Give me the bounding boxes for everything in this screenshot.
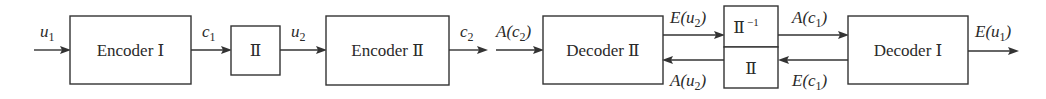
signal-A-u2: A(u2) — [669, 71, 707, 93]
arrow-Au2 — [662, 56, 724, 64]
interleaver-block: Ⅱ — [231, 26, 280, 75]
signal-E-u2: E(u2) — [669, 8, 707, 30]
signal-c1: c1 — [202, 22, 216, 44]
interleaver-2-block: Ⅱ — [724, 47, 778, 88]
signal-u1: u1 — [40, 22, 55, 44]
turbo-code-diagram: u1 Encoder Ⅰ c1 Ⅱ u2 Encoder Ⅱ c2 A(c2) — [0, 0, 1046, 99]
encoder-2-label: Encoder Ⅱ — [351, 41, 423, 60]
signal-c2: c2 — [460, 22, 474, 44]
arrow-Eu1-output — [968, 47, 1019, 55]
signal-A-c2: A(c2) — [495, 22, 532, 44]
arrow-c2 — [449, 46, 488, 54]
signal-A-c1: A(c1) — [791, 8, 828, 30]
arrow-u2 — [280, 46, 327, 54]
arrow-Ac2 — [496, 46, 544, 54]
decoder-1-label: Decoder Ⅰ — [874, 41, 943, 60]
encoder-1-block: Encoder Ⅰ — [70, 16, 191, 84]
decoder-1-block: Decoder Ⅰ — [848, 16, 968, 84]
arrow-u1-input — [34, 46, 71, 54]
arrow-Ec1 — [778, 56, 848, 64]
decoder-2-block: Decoder Ⅱ — [543, 16, 663, 84]
interleaver-2-label: Ⅱ — [745, 59, 757, 78]
deinterleaver-block: Ⅱ−1 — [724, 6, 778, 47]
arrow-c1 — [191, 46, 232, 54]
encoder-2-block: Encoder Ⅱ — [326, 16, 449, 85]
interleaver-label: Ⅱ — [250, 41, 262, 60]
arrow-Eu2 — [663, 31, 725, 39]
signal-E-c1: E(c1) — [791, 71, 828, 93]
signal-E-u1: E(u1) — [974, 22, 1012, 44]
encoder-1-label: Encoder Ⅰ — [97, 41, 165, 60]
signal-u2: u2 — [291, 22, 306, 44]
arrow-Ac1 — [778, 31, 849, 39]
decoder-2-label: Decoder Ⅱ — [566, 41, 639, 60]
